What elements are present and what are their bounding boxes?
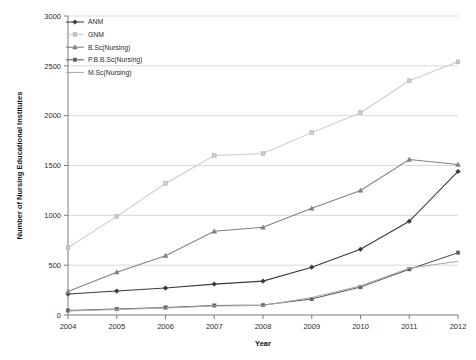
series-gnm bbox=[66, 60, 460, 250]
y-axis-tick-label: 2000 bbox=[44, 111, 61, 120]
x-axis-tick-label: 2012 bbox=[450, 322, 467, 331]
data-point bbox=[358, 188, 363, 192]
data-point bbox=[114, 289, 119, 294]
y-axis-tick-label: 0 bbox=[57, 311, 61, 320]
x-axis-tick-label: 2004 bbox=[60, 322, 77, 331]
data-point bbox=[212, 154, 216, 158]
legend-item[interactable]: GNM bbox=[66, 31, 104, 38]
y-axis-tick-label: 1000 bbox=[44, 211, 61, 220]
data-point bbox=[456, 60, 460, 64]
x-axis-tick-label: 2005 bbox=[108, 322, 125, 331]
x-axis-tick-label: 2009 bbox=[303, 322, 320, 331]
legend-label: ANM bbox=[88, 18, 103, 25]
legend-marker bbox=[73, 20, 78, 25]
data-point bbox=[310, 131, 314, 135]
x-axis-tick-label: 2010 bbox=[352, 322, 369, 331]
legend-item[interactable]: M.Sc(Nursing) bbox=[66, 69, 131, 77]
series-line bbox=[68, 171, 458, 294]
data-point bbox=[163, 253, 168, 257]
line-chart: 0500100015002000250030002004200520062007… bbox=[0, 0, 476, 360]
y-axis-tick-label: 500 bbox=[48, 261, 61, 270]
legend-item[interactable]: ANM bbox=[66, 18, 103, 25]
data-point bbox=[261, 279, 266, 284]
data-point bbox=[456, 251, 460, 255]
legend-label: M.Sc(Nursing) bbox=[88, 69, 131, 77]
data-point bbox=[66, 246, 70, 250]
legend-label: B.Sc(Nursing) bbox=[88, 44, 130, 52]
data-point bbox=[115, 214, 119, 218]
y-axis-tick-label: 1500 bbox=[44, 161, 61, 170]
x-axis-tick-label: 2006 bbox=[157, 322, 174, 331]
chart-canvas: 0500100015002000250030002004200520062007… bbox=[0, 0, 476, 360]
data-point bbox=[164, 182, 168, 186]
legend-label: P.B.B.Sc(Nursing) bbox=[88, 56, 142, 64]
data-point bbox=[163, 286, 168, 291]
data-point bbox=[407, 79, 411, 83]
data-point bbox=[261, 152, 265, 156]
x-axis-tick-label: 2011 bbox=[401, 322, 417, 331]
data-point bbox=[358, 247, 363, 252]
legend-item[interactable]: P.B.B.Sc(Nursing) bbox=[66, 56, 142, 64]
y-axis-tick-label: 3000 bbox=[44, 12, 61, 21]
x-axis-tick-label: 2007 bbox=[206, 322, 223, 331]
data-point bbox=[212, 282, 217, 287]
y-axis-title: Number of Nursing Educational Institutes bbox=[15, 92, 24, 240]
data-point bbox=[359, 111, 363, 115]
legend: ANMGNMB.Sc(Nursing)P.B.B.Sc(Nursing)M.Sc… bbox=[66, 18, 142, 76]
series-b-sc-nursing bbox=[66, 157, 461, 293]
x-axis-tick-label: 2008 bbox=[255, 322, 272, 331]
x-axis-title: Year bbox=[255, 339, 271, 348]
legend-marker bbox=[73, 33, 77, 37]
y-axis-tick-label: 2500 bbox=[44, 62, 61, 71]
legend-item[interactable]: B.Sc(Nursing) bbox=[66, 44, 130, 52]
legend-label: GNM bbox=[88, 31, 104, 38]
series-anm bbox=[66, 169, 461, 296]
legend-marker bbox=[73, 58, 77, 62]
